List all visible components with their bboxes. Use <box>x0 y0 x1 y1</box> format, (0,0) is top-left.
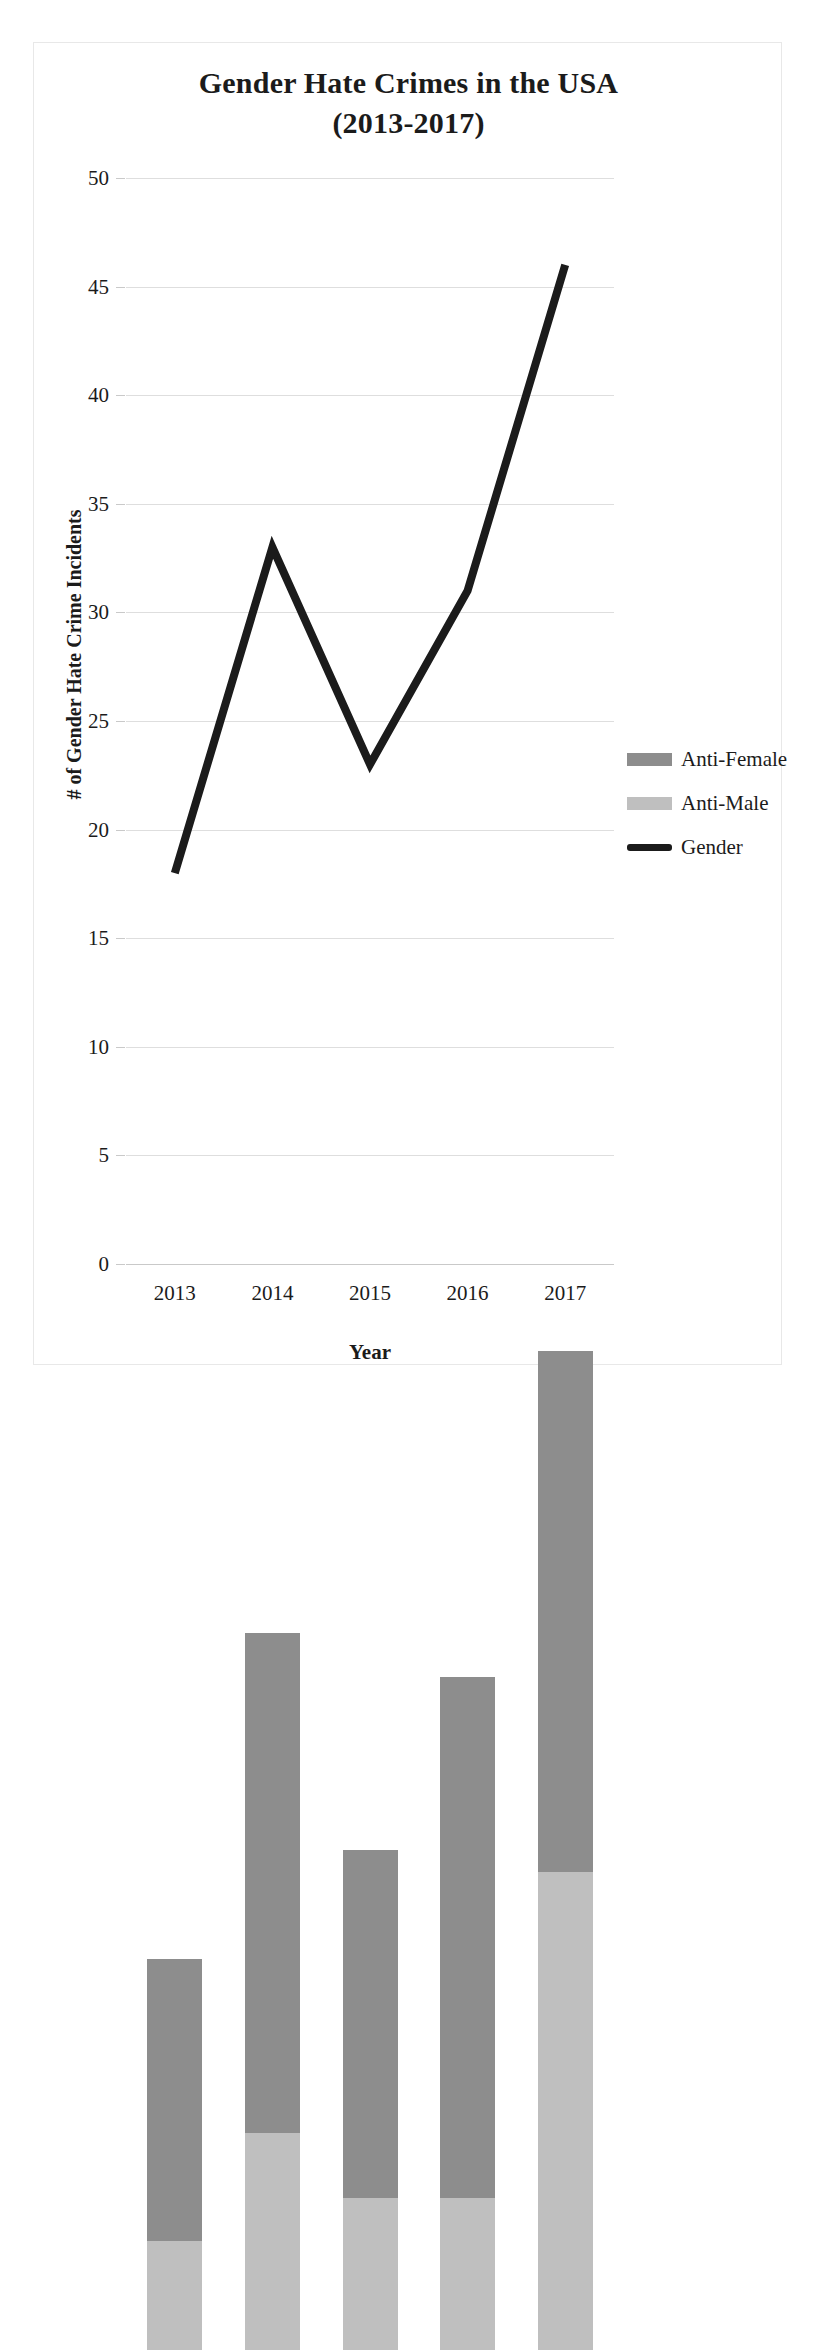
y-axis-tick-mark <box>116 287 125 288</box>
bar-segment-anti-male[interactable] <box>343 2198 398 2350</box>
bar-segment-anti-male[interactable] <box>147 2241 202 2350</box>
light-gray-swatch <box>627 797 672 810</box>
gridline <box>126 178 614 179</box>
y-axis-tick-label: 0 <box>49 1254 109 1275</box>
black-line-swatch <box>627 844 672 851</box>
legend-item-label: Gender <box>681 835 743 860</box>
bar-segment-anti-female[interactable] <box>538 1351 593 1872</box>
y-axis-tick-mark <box>116 721 125 722</box>
y-axis-title: # of Gender Hate Crime Incidents <box>63 465 86 845</box>
gridline <box>126 1155 614 1156</box>
chart-title: Gender Hate Crimes in the USA (2013-2017… <box>34 63 783 143</box>
legend-item-label: Anti-Male <box>681 791 768 816</box>
y-axis-tick-mark <box>116 612 125 613</box>
chart-title-line-2: (2013-2017) <box>34 103 783 143</box>
chart-legend: Anti-FemaleAnti-MaleGender <box>627 737 816 869</box>
gridline <box>126 1047 614 1048</box>
y-axis-tick-label: 35 <box>49 493 109 514</box>
plot-area: 05101520253035404550 2013201420152016201… <box>126 178 614 1264</box>
bar-segment-anti-male[interactable] <box>538 1872 593 2350</box>
legend-item[interactable]: Gender <box>627 825 816 869</box>
y-axis-tick-label: 10 <box>49 1036 109 1057</box>
x-axis-tick-label: 2017 <box>505 1264 625 1306</box>
bar-segment-anti-male[interactable] <box>245 2133 300 2350</box>
y-axis-tick-label: 50 <box>49 168 109 189</box>
y-axis-tick-label: 5 <box>49 1145 109 1166</box>
gridline <box>126 721 614 722</box>
y-axis-tick-label: 20 <box>49 819 109 840</box>
y-axis-tick-mark <box>116 830 125 831</box>
legend-item[interactable]: Anti-Male <box>627 781 816 825</box>
legend-item-label: Anti-Female <box>681 747 787 772</box>
y-axis-tick-label: 45 <box>49 276 109 297</box>
y-axis-tick-label: 25 <box>49 711 109 732</box>
y-axis-tick-label: 40 <box>49 385 109 406</box>
y-axis-tick-mark <box>116 1155 125 1156</box>
bar-segment-anti-male[interactable] <box>440 2198 495 2350</box>
y-axis-tick-mark <box>116 178 125 179</box>
chart-title-line-1: Gender Hate Crimes in the USA <box>199 66 618 99</box>
gridline <box>126 612 614 613</box>
gridline <box>126 287 614 288</box>
figure-frame: Gender Hate Crimes in the USA (2013-2017… <box>33 42 782 1365</box>
bar-segment-anti-female[interactable] <box>147 1959 202 2241</box>
y-axis-tick-mark <box>116 1047 125 1048</box>
bar-segment-anti-female[interactable] <box>343 1850 398 2198</box>
x-axis-title: Year <box>126 1340 614 1365</box>
y-axis-tick-label: 15 <box>49 928 109 949</box>
gridline <box>126 395 614 396</box>
gridline <box>126 504 614 505</box>
legend-item[interactable]: Anti-Female <box>627 737 816 781</box>
gridline <box>126 830 614 831</box>
y-axis-tick-mark <box>116 938 125 939</box>
bar-segment-anti-female[interactable] <box>440 1677 495 2198</box>
y-axis-tick-mark <box>116 395 125 396</box>
y-axis-tick-label: 30 <box>49 602 109 623</box>
gridline <box>126 938 614 939</box>
plot-inner: 05101520253035404550 2013201420152016201… <box>126 178 614 1264</box>
dark-gray-swatch <box>627 753 672 766</box>
bar-segment-anti-female[interactable] <box>245 1633 300 2133</box>
y-axis-tick-mark <box>116 504 125 505</box>
gender-line-path <box>175 265 565 873</box>
